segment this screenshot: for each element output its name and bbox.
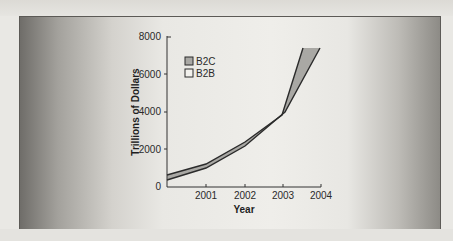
- x-tick-label: 2004: [310, 190, 333, 201]
- x-tick-label: 2002: [234, 190, 257, 201]
- legend-label-b2b: B2B: [196, 68, 215, 79]
- legend-swatch-b2c: [185, 57, 193, 65]
- y-tick-label: 0: [155, 181, 161, 192]
- chart-svg: 0 2000 4000 6000 8000 2001 2002 2003 200…: [0, 0, 453, 241]
- legend-label-b2c: B2C: [196, 56, 215, 67]
- x-tick-label: 2001: [195, 190, 218, 201]
- y-axis-title: Trillions of Dollars: [130, 68, 141, 156]
- y-tick-label: 8000: [139, 31, 162, 42]
- y-tick-label: 2000: [139, 144, 162, 155]
- legend-swatch-b2b: [185, 69, 193, 77]
- x-tick-label: 2003: [272, 190, 295, 201]
- x-axis-title: Year: [233, 204, 254, 215]
- y-tick-label: 6000: [139, 69, 162, 80]
- total-line: [167, 48, 303, 175]
- y-tick-label: 4000: [139, 106, 162, 117]
